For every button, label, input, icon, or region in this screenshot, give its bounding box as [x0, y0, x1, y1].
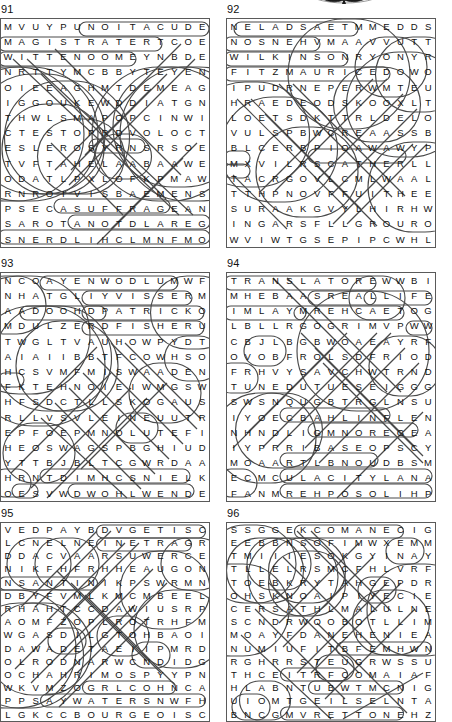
letter-cell: E [167, 471, 181, 486]
letter-cell: Y [56, 273, 70, 288]
letter-cell: S [43, 629, 57, 642]
grid-box-95[interactable]: VEDPAYBDVGETISCLCNELNEINETRAGRDDACVAARSU… [0, 522, 210, 722]
letter-cell: L [126, 486, 140, 501]
letter-cell: G [70, 80, 84, 95]
letter-cell: N [15, 232, 29, 247]
puzzle-number-94: 94 [227, 258, 436, 269]
letter-cell: O [338, 334, 352, 349]
letter-cell: S [195, 186, 209, 201]
grid-box-93[interactable]: NCOAYENWODLUMWFNHATGLIYVISSERMAADOOHDPAT… [0, 272, 210, 502]
letter-cell: D [98, 602, 112, 615]
letter-cell: T [255, 65, 269, 80]
letter-cell: O [352, 425, 366, 440]
letter-cell: R [140, 303, 154, 318]
letter-cell: A [98, 642, 112, 655]
letter-cell: M [366, 19, 380, 34]
letter-cell: N [70, 655, 84, 668]
letter-cell: T [43, 65, 57, 80]
letter-cell: H [195, 695, 209, 708]
letter-cell: N [227, 34, 241, 49]
letter-cell: C [43, 708, 57, 721]
letter-cell: W [56, 440, 70, 455]
letter-cell: Y [154, 668, 168, 681]
letter-cell: M [421, 615, 435, 628]
letter-cell: M [282, 65, 296, 80]
letter-cell: C [56, 708, 70, 721]
letter-cell: N [140, 655, 154, 668]
letter-cell: A [255, 95, 269, 110]
letter-cell: S [43, 125, 57, 140]
letter-cell: H [296, 34, 310, 49]
letter-cell: C [126, 681, 140, 694]
letter-cell: H [167, 349, 181, 364]
letter-cell: T [56, 602, 70, 615]
letter-cell: G [29, 334, 43, 349]
letter-cell: P [126, 110, 140, 125]
letter-cell: L [227, 110, 241, 125]
letter-cell: G [126, 708, 140, 721]
letter-cell: I [15, 563, 29, 576]
letter-cell: W [167, 695, 181, 708]
letter-cell: R [154, 615, 168, 628]
letter-cell: E [29, 80, 43, 95]
letter-cell: V [1, 523, 15, 536]
grid-box-94[interactable]: TRANSLATOREWWBIMHEBAASREALLIFEIMLAYMREHC… [226, 272, 436, 502]
letter-cell: O [43, 186, 57, 201]
letter-cell: H [407, 708, 421, 721]
letter-cell: I [269, 642, 283, 655]
letter-cell: S [29, 364, 43, 379]
letter-cell: C [282, 410, 296, 425]
letter-cell: E [195, 486, 209, 501]
letter-cell: T [227, 549, 241, 562]
letter-cell: A [241, 171, 255, 186]
letter-cell: P [282, 125, 296, 140]
letter-cell: A [255, 629, 269, 642]
letter-cell: K [29, 563, 43, 576]
letter-cell: V [126, 125, 140, 140]
letter-cell: U [195, 319, 209, 334]
letter-cell: I [393, 629, 407, 642]
letter-cell: I [324, 141, 338, 156]
letter-cell: N [393, 681, 407, 694]
letter-cell: X [241, 156, 255, 171]
letter-cell: R [407, 217, 421, 232]
letter-cell: U [352, 186, 366, 201]
letter-cell: M [296, 303, 310, 318]
letter-cell: R [296, 156, 310, 171]
letter-cell: C [393, 589, 407, 602]
letter-cell: F [338, 186, 352, 201]
letter-cell: B [269, 576, 283, 589]
letter-cell: E [324, 708, 338, 721]
letter-cell: K [15, 681, 29, 694]
letter-cell: O [366, 440, 380, 455]
letter-cell: R [282, 440, 296, 455]
letter-cell: B [407, 273, 421, 288]
letter-cell: S [112, 549, 126, 562]
letter-cell: A [56, 523, 70, 536]
letter-cell: R [181, 642, 195, 655]
grid-box-96[interactable]: SSGGEKCOMANECIGEEBBNSOFIMWXEMMTMIIIESOKG… [226, 522, 436, 722]
letter-cell: G [296, 319, 310, 334]
grid-box-92[interactable]: NELADSAETMMEDDSNOSNEHVMAAVVUTTWILKINSONR… [226, 18, 436, 248]
letter-cell: O [352, 455, 366, 470]
letter-cell: V [296, 708, 310, 721]
grid-box-91[interactable]: MVUYPUNOITACUDEMAGISTRATERTCOEWITTENOOME… [0, 18, 210, 248]
letter-cell: T [296, 602, 310, 615]
letter-cell: S [282, 110, 296, 125]
letter-cell: U [29, 19, 43, 34]
letter-cell: I [70, 629, 84, 642]
letter-cell: R [98, 125, 112, 140]
letter-cell: M [338, 523, 352, 536]
letter-cell: S [338, 349, 352, 364]
letter-cell: V [241, 232, 255, 247]
letter-cell: E [181, 217, 195, 232]
letter-cell: U [126, 549, 140, 562]
letter-cell: A [380, 334, 394, 349]
letter-cell: I [84, 232, 98, 247]
letter-cell: G [421, 523, 435, 536]
letter-cell: N [84, 273, 98, 288]
letter-cell: G [167, 379, 181, 394]
letter-cell: T [195, 125, 209, 140]
letter-cell: D [56, 232, 70, 247]
letter-cell: L [181, 471, 195, 486]
